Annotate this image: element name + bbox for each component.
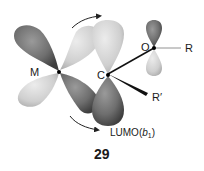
carbon-lobe-upper	[92, 20, 124, 74]
metal-d-orbital	[14, 25, 100, 113]
carbon-label: C	[97, 70, 105, 81]
r-label: R	[185, 43, 193, 54]
figure-number: 29	[94, 147, 110, 161]
carbon-lobe-lower	[92, 76, 124, 126]
metal-lobe-upper-left	[14, 25, 59, 71]
oxygen-lobe-lower	[146, 49, 162, 76]
oxygen-label: O	[141, 42, 150, 53]
metal-atom-dot	[57, 70, 61, 74]
metal-lobe-lower-left	[18, 73, 59, 107]
lumo-label: LUMO(b1)	[110, 128, 155, 139]
bonds	[108, 48, 181, 96]
r-prime-label: R′	[152, 92, 162, 103]
oxygen-atom-dot	[152, 46, 156, 50]
carbon-atom-dot	[106, 73, 110, 77]
metal-label: M	[30, 67, 39, 78]
